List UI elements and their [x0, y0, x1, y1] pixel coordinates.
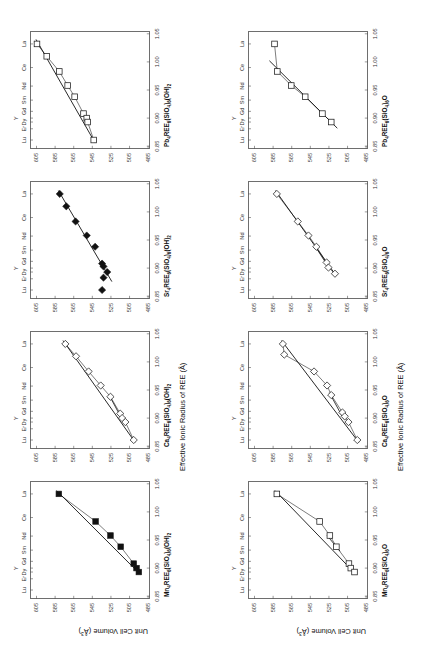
- data-point: [272, 41, 278, 47]
- ree-tick-label-Y: Y: [231, 110, 237, 126]
- y-tick-label: 525: [108, 153, 114, 171]
- ree-tick-label-Ce: Ce: [21, 360, 27, 376]
- x-tick-label: 0.90: [154, 259, 160, 277]
- x-tick-label: 0.90: [372, 259, 378, 277]
- plot-canvas-pb-hydroxyl: [30, 31, 150, 149]
- ree-tick-label-Sm: Sm: [21, 392, 27, 408]
- y-tick-label: 585: [270, 603, 276, 621]
- y-tick-label: 505: [126, 603, 132, 621]
- panel-title-sr-hydroxyl: Sr4REE6(SiO4)6(OH)2: [163, 235, 172, 297]
- panel-sr-oxy: 4855055255455655856050.850.900.951.001.0…: [248, 181, 368, 299]
- panel-title-ca-oxy: Ca4REE6(SiO4)6O: [381, 395, 390, 447]
- panel-pb-oxy: 4855055255455655856050.850.900.951.001.0…: [248, 31, 368, 149]
- x-tick-label: 1.00: [372, 203, 378, 221]
- data-point: [44, 53, 50, 59]
- y-tick-label: 605: [251, 453, 257, 471]
- data-point: [136, 569, 142, 575]
- ree-tick-label-Sm: Sm: [21, 542, 27, 558]
- x-tick-label: 0.95: [372, 81, 378, 99]
- panel-title-mn-hydroxyl: Mn4REE6(SiO4)6(OH)2: [163, 533, 172, 597]
- x-tick-label: 0.90: [372, 409, 378, 427]
- y-tick-label: 525: [326, 453, 332, 471]
- y-tick-label: 565: [288, 453, 294, 471]
- y-tick-label: 485: [363, 453, 369, 471]
- x-axis-title-row1: Effective Ionic Radius of REE (Å): [178, 363, 187, 471]
- data-point: [83, 232, 90, 239]
- panel-mn-hydroxyl: 4855055255455655856050.850.900.951.001.0…: [30, 481, 150, 599]
- y-tick-label: 505: [344, 303, 350, 321]
- y-tick-label: 505: [344, 453, 350, 471]
- x-tick-label: 0.95: [372, 381, 378, 399]
- ree-tick-label-La: La: [239, 186, 245, 202]
- ree-tick-label-Y: Y: [13, 110, 19, 126]
- x-tick-label: 0.85: [154, 287, 160, 305]
- x-tick-label: 0.85: [154, 137, 160, 155]
- plot-canvas-sr-hydroxyl: [30, 181, 150, 299]
- x-tick-label: 0.90: [154, 109, 160, 127]
- data-point: [91, 137, 97, 143]
- plot-canvas-mn-oxy: [248, 481, 368, 599]
- x-tick-label: 0.85: [372, 437, 378, 455]
- data-point: [281, 351, 288, 358]
- y-tick-label: 565: [288, 303, 294, 321]
- data-point: [328, 119, 334, 125]
- ree-tick-label-Ce: Ce: [239, 360, 245, 376]
- y-tick-label: 525: [108, 453, 114, 471]
- panel-ca-oxy: 4855055255455655856050.850.900.951.001.0…: [248, 331, 368, 449]
- x-tick-label: 1.05: [154, 475, 160, 493]
- y-tick-label: 545: [89, 303, 95, 321]
- data-point: [108, 533, 114, 539]
- ree-tick-label-Y: Y: [231, 260, 237, 276]
- plot-canvas-ca-hydroxyl: [30, 331, 150, 449]
- ree-tick-label-Nd: Nd: [21, 378, 27, 394]
- x-tick-label: 0.85: [372, 137, 378, 155]
- y-tick-label: 605: [251, 153, 257, 171]
- ree-tick-label-La: La: [239, 336, 245, 352]
- x-tick-label: 1.00: [372, 353, 378, 371]
- x-tick-label: 0.95: [372, 231, 378, 249]
- data-point: [275, 69, 281, 75]
- x-tick-label: 1.05: [372, 175, 378, 193]
- y-tick-label: 485: [363, 603, 369, 621]
- x-tick-label: 1.00: [154, 203, 160, 221]
- y-axis-title-row1: Unit Cell Volume (Å3): [79, 627, 149, 637]
- panel-ca-hydroxyl: 4855055255455655856050.850.900.951.001.0…: [30, 331, 150, 449]
- y-tick-label: 485: [145, 453, 151, 471]
- x-tick-label: 0.90: [372, 109, 378, 127]
- y-tick-label: 565: [70, 603, 76, 621]
- y-tick-label: 485: [145, 603, 151, 621]
- y-tick-label: 505: [126, 153, 132, 171]
- data-point: [345, 418, 352, 425]
- y-tick-label: 585: [52, 303, 58, 321]
- y-tick-label: 545: [307, 303, 313, 321]
- x-tick-label: 0.90: [154, 559, 160, 577]
- x-tick-label: 1.00: [154, 353, 160, 371]
- data-point: [65, 83, 71, 89]
- trend-line: [57, 491, 141, 575]
- data-point: [34, 41, 40, 47]
- y-tick-label: 505: [344, 603, 350, 621]
- x-tick-label: 0.90: [372, 559, 378, 577]
- ree-tick-label-Ce: Ce: [21, 60, 27, 76]
- y-tick-label: 485: [145, 153, 151, 171]
- x-tick-label: 1.05: [372, 25, 378, 43]
- y-tick-label: 585: [270, 303, 276, 321]
- panel-title-pb-oxy: Pb4REE6(SiO4)6O: [381, 95, 390, 147]
- data-point: [72, 94, 78, 100]
- ree-tick-label-La: La: [21, 36, 27, 52]
- y-tick-label: 505: [126, 303, 132, 321]
- data-point: [274, 491, 280, 497]
- y-tick-label: 485: [363, 153, 369, 171]
- y-tick-label: 545: [307, 153, 313, 171]
- x-tick-label: 1.00: [154, 503, 160, 521]
- x-tick-label: 1.05: [372, 475, 378, 493]
- ree-tick-label-Nd: Nd: [21, 528, 27, 544]
- y-tick-label: 505: [126, 453, 132, 471]
- y-tick-label: 545: [307, 603, 313, 621]
- ree-tick-label-Sm: Sm: [239, 92, 245, 108]
- y-tick-label: 545: [89, 153, 95, 171]
- ree-tick-label-Ce: Ce: [21, 210, 27, 226]
- data-point: [334, 544, 340, 550]
- ree-tick-label-Ce: Ce: [239, 210, 245, 226]
- panel-title-sr-oxy: Sr4REE6(SiO4)6O: [381, 247, 390, 297]
